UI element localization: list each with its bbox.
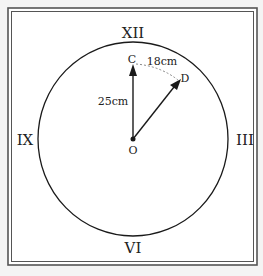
numeral-xii: XII bbox=[122, 24, 145, 42]
numeral-iii: III bbox=[236, 131, 254, 149]
label-radius: 25cm bbox=[98, 95, 129, 108]
label-o: O bbox=[128, 144, 137, 157]
label-d: D bbox=[181, 72, 190, 85]
numeral-vi: VI bbox=[124, 239, 142, 257]
numeral-ix: IX bbox=[17, 131, 34, 149]
clock-diagram: XII III VI IX O C D 25cm 18cm bbox=[0, 0, 263, 276]
label-c: C bbox=[128, 53, 136, 66]
label-arc: 18cm bbox=[147, 55, 178, 68]
center-dot bbox=[131, 137, 136, 142]
